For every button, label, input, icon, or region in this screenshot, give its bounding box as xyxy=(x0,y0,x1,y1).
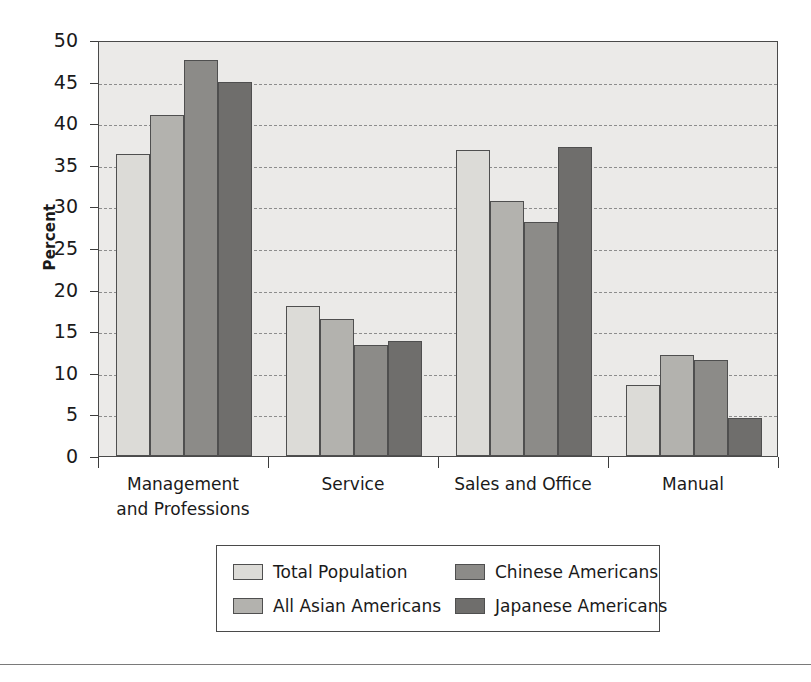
bar xyxy=(388,341,422,456)
y-axis-tick-label: 15 xyxy=(26,322,78,341)
y-axis-tick-label: 0 xyxy=(26,447,78,466)
bar xyxy=(490,201,524,456)
bar xyxy=(524,222,558,456)
y-axis-tick-label: 30 xyxy=(26,197,78,216)
legend-label: All Asian Americans xyxy=(273,598,441,615)
x-axis-tick-mark xyxy=(778,457,779,468)
bar xyxy=(694,360,728,456)
bar xyxy=(456,150,490,456)
legend-label: Japanese Americans xyxy=(495,598,667,615)
y-axis-tick-label: 25 xyxy=(26,239,78,258)
legend-swatch xyxy=(233,598,263,614)
legend-entry: Total Population xyxy=(233,564,455,581)
plot-area xyxy=(98,41,778,457)
bar-chart-figure: Percent 05101520253035404550 Management … xyxy=(0,0,811,682)
bar xyxy=(286,306,320,456)
legend-swatch xyxy=(233,564,263,580)
legend-entry: Chinese Americans xyxy=(455,564,645,581)
x-axis-category-label: Sales and Office xyxy=(438,472,608,497)
legend-entry-grid: Total PopulationChinese AmericansAll Asi… xyxy=(233,555,645,623)
bar xyxy=(728,418,762,456)
y-axis-tick-label: 50 xyxy=(26,31,78,50)
x-axis-tick-mark xyxy=(98,457,99,468)
x-axis-category-label: Service xyxy=(268,472,438,497)
bar xyxy=(660,355,694,456)
legend-label: Total Population xyxy=(273,564,407,581)
bar xyxy=(320,319,354,456)
y-axis-tick-label: 40 xyxy=(26,114,78,133)
legend-entry: All Asian Americans xyxy=(233,598,455,615)
y-axis-tick-label: 20 xyxy=(26,281,78,300)
x-axis-tick-mark xyxy=(268,457,269,468)
legend-label: Chinese Americans xyxy=(495,564,658,581)
bar xyxy=(184,60,218,456)
x-axis-category-label: Management and Professions xyxy=(98,472,268,522)
bar xyxy=(558,147,592,457)
y-axis-tick-label: 35 xyxy=(26,156,78,175)
legend-swatch xyxy=(455,564,485,580)
x-axis-category-label: Manual xyxy=(608,472,778,497)
y-axis-tick-label: 10 xyxy=(26,364,78,383)
bar xyxy=(354,345,388,456)
legend-swatch xyxy=(455,598,485,614)
legend-entry: Japanese Americans xyxy=(455,598,645,615)
bar xyxy=(218,82,252,456)
bottom-divider xyxy=(0,664,811,665)
legend: Total PopulationChinese AmericansAll Asi… xyxy=(216,545,660,632)
bar xyxy=(626,385,660,456)
bar xyxy=(150,115,184,456)
x-axis-tick-mark xyxy=(608,457,609,468)
x-axis-tick-mark xyxy=(438,457,439,468)
y-axis-tick-label: 5 xyxy=(26,405,78,424)
y-axis-tick-label: 45 xyxy=(26,73,78,92)
bar xyxy=(116,154,150,456)
